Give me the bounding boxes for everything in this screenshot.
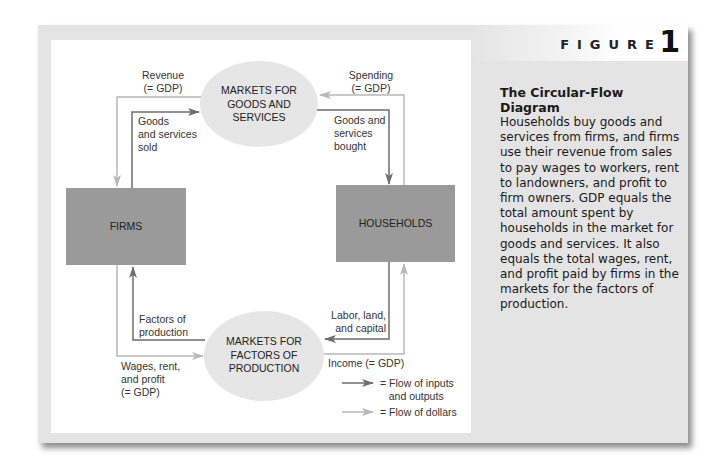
goods-market-label: MARKETS FOR GOODS AND SERVICES bbox=[200, 84, 318, 125]
factors-label: Factors of production bbox=[139, 313, 188, 339]
legend-dollars: = Flow of dollars bbox=[380, 406, 457, 419]
wages-label: Wages, rent, and profit (= GDP) bbox=[121, 360, 180, 399]
firms-label: FIRMS bbox=[66, 220, 186, 234]
wages-flow-arrow bbox=[117, 265, 203, 356]
goods-sold-label: Goods and services sold bbox=[138, 115, 197, 154]
revenue-label: Revenue (= GDP) bbox=[128, 69, 198, 95]
income-label: Income (= GDP) bbox=[328, 357, 404, 370]
factor-market-label: MARKETS FOR FACTORS OF PRODUCTION bbox=[204, 335, 324, 376]
goods-bought-label: Goods and services bought bbox=[334, 114, 385, 153]
legend-inputs-outputs: = Flow of inputs and outputs bbox=[380, 377, 454, 403]
households-label: HOUSEHOLDS bbox=[336, 217, 455, 231]
labor-label: Labor, land, and capital bbox=[330, 309, 386, 335]
spending-label: Spending (= GDP) bbox=[336, 69, 406, 95]
